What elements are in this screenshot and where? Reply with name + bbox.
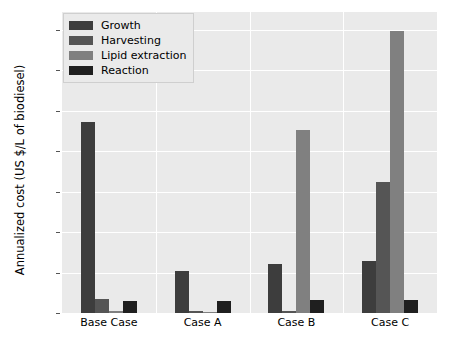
bar [404,300,418,313]
chart-legend: GrowthHarvestingLipid extractionReaction [63,13,194,83]
bar [282,311,296,313]
legend-swatch [69,21,93,30]
bar [175,271,189,313]
x-tick-label: Case B [277,316,315,329]
legend-swatch [69,36,93,45]
bar [189,311,203,313]
x-tick-label: Case A [184,316,222,329]
legend-item: Reaction [69,63,186,78]
y-tick-mark [56,70,60,71]
legend-item: Harvesting [69,33,186,48]
x-tick-label: Base Case [80,316,137,329]
bar [203,312,217,313]
legend-item: Growth [69,18,186,33]
legend-label: Reaction [101,64,149,77]
bar [109,311,123,313]
bar [362,261,376,313]
vertical-gridline [343,12,344,313]
bar [81,122,95,313]
y-tick-mark [56,30,60,31]
bar [390,31,404,313]
y-tick-mark [56,232,60,233]
y-tick-mark [56,151,60,152]
bar [376,182,390,313]
x-tick-label: Case C [371,316,409,329]
y-tick-mark [56,273,60,274]
legend-label: Growth [101,19,141,32]
bar [310,300,324,313]
bar [296,130,310,313]
y-tick-mark [56,313,60,314]
bar [123,301,137,313]
vertical-gridline [250,12,251,313]
legend-item: Lipid extraction [69,48,186,63]
y-axis-label: Annualized cost (US $/L of biodiesel) [13,20,27,320]
legend-label: Harvesting [101,34,161,47]
bar [268,264,282,313]
y-tick-mark [56,111,60,112]
bar [217,301,231,313]
legend-label: Lipid extraction [101,49,186,62]
legend-swatch [69,51,93,60]
figure: Annualized cost (US $/L of biodiesel) 0.… [0,0,452,341]
bar [95,299,109,313]
legend-swatch [69,66,93,75]
y-tick-mark [56,192,60,193]
